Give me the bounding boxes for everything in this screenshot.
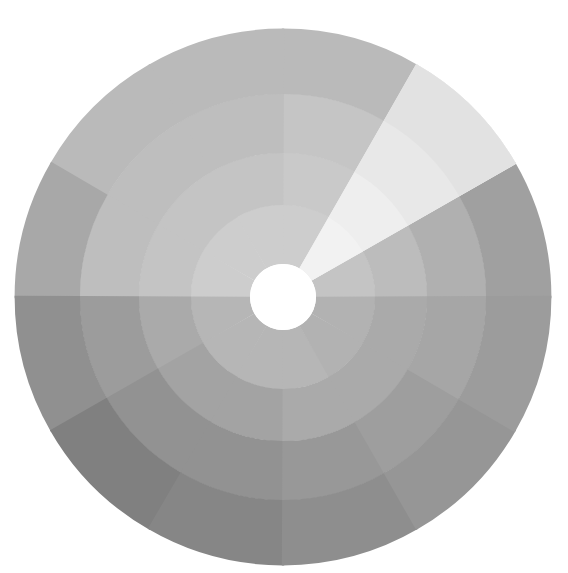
- sunburst-chart: [0, 0, 568, 573]
- center-hole: [250, 264, 316, 330]
- chart-root: [0, 0, 568, 573]
